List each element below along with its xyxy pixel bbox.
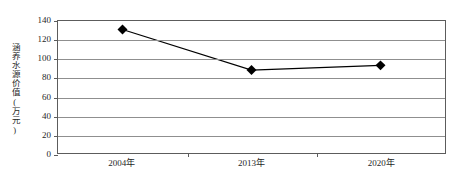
- series-markers: [118, 25, 386, 75]
- gridline: [58, 117, 445, 118]
- line-chart: 涵养水源价值(万元) 020406080100120140 2004年2013年…: [0, 0, 460, 190]
- series-line: [122, 29, 380, 70]
- y-axis-tickmark: [54, 21, 58, 22]
- y-axis-tick-label: 100: [38, 54, 52, 63]
- data-point-marker: [247, 65, 257, 75]
- x-axis-tickmark: [317, 153, 318, 157]
- y-axis-tickmark: [54, 136, 58, 137]
- plot-area: [57, 20, 446, 154]
- y-axis-tick-label: 120: [38, 35, 52, 44]
- x-axis-tickmark: [188, 153, 189, 157]
- gridline: [58, 136, 445, 137]
- x-axis-tick-label: 2020年: [368, 158, 395, 169]
- gridline: [58, 78, 445, 79]
- x-axis-tick-label: 2004年: [108, 158, 135, 169]
- y-axis-tickmark: [54, 40, 58, 41]
- data-point-marker: [118, 25, 128, 35]
- y-axis-tickmark: [54, 78, 58, 79]
- y-axis-tickmark: [54, 155, 58, 156]
- data-point-marker: [376, 60, 386, 70]
- gridline: [58, 98, 445, 99]
- y-axis-tickmark: [54, 59, 58, 60]
- y-axis-tick-label: 40: [42, 111, 51, 120]
- y-axis-title: 涵养水源价值(万元): [6, 24, 22, 154]
- y-axis-tick-label: 20: [42, 130, 51, 139]
- x-axis-tick-label: 2013年: [238, 158, 265, 169]
- y-axis-tick-label: 60: [42, 92, 51, 101]
- x-axis-tick-labels: 2004年2013年2020年: [0, 158, 460, 178]
- gridline: [58, 40, 445, 41]
- gridline: [58, 59, 445, 60]
- y-axis-tickmark: [54, 117, 58, 118]
- y-axis-tick-label: 140: [38, 16, 52, 25]
- y-axis-tickmark: [54, 98, 58, 99]
- y-axis-tick-label: 80: [42, 73, 51, 82]
